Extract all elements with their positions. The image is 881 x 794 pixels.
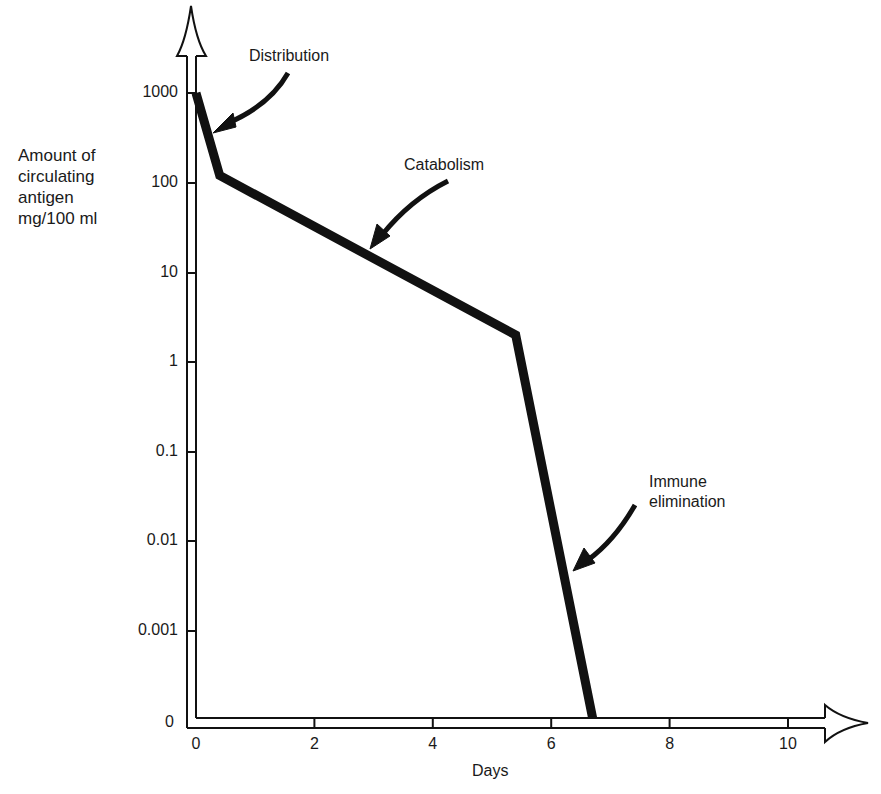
x-tick-label: 0 [181, 735, 211, 753]
y-tick-label: 0.1 [108, 442, 178, 460]
x-axis-label: Days [472, 762, 508, 780]
annotation-arrows [213, 73, 635, 571]
x-tick-label: 4 [418, 735, 448, 753]
y-axis-label: Amount of circulating antigen mg/100 ml [18, 145, 97, 229]
y-tick-label: 0 [104, 713, 174, 731]
x-tick-marks [314, 718, 788, 728]
x-tick-label: 10 [773, 735, 803, 753]
catabolism-arrow-icon [382, 181, 448, 235]
distribution-arrow-icon [228, 73, 288, 123]
y-tick-label: 1 [108, 352, 178, 370]
y-tick-label: 100 [108, 173, 178, 191]
immune-arrow-icon [588, 505, 635, 560]
x-tick-label: 2 [299, 735, 329, 753]
x-tick-label: 8 [655, 735, 685, 753]
x-axis-arrow-icon [825, 705, 868, 742]
x-axis [187, 705, 868, 742]
y-axis-arrow-icon [177, 6, 206, 56]
y-tick-label: 1000 [108, 83, 178, 101]
annotation-catabolism: Catabolism [404, 155, 484, 175]
y-tick-marks [187, 93, 196, 631]
y-tick-label: 0.001 [108, 621, 178, 639]
antigen-decay-line [196, 93, 593, 718]
x-tick-label: 6 [536, 735, 566, 753]
y-tick-label: 10 [108, 263, 178, 281]
annotation-immune-elimination: Immune elimination [649, 472, 725, 512]
y-tick-label: 0.01 [108, 531, 178, 549]
chart-canvas [0, 0, 881, 794]
annotation-distribution: Distribution [249, 46, 329, 66]
